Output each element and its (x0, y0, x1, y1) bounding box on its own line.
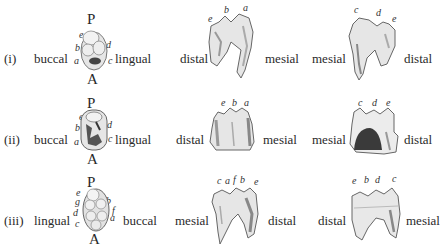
molar-side-drawing (348, 184, 404, 244)
occlusal-tooth-drawing (82, 186, 110, 232)
anterior-label: A (87, 72, 98, 87)
posterior-label: P (87, 12, 95, 27)
anterior-label: A (89, 232, 100, 247)
cusp-label: a (110, 213, 115, 223)
molar-side-drawing (207, 12, 257, 80)
view2-left-label: mesial (175, 214, 209, 227)
row-numeral: (iii) (4, 214, 24, 227)
view3-right-label: distal (404, 52, 432, 65)
view3-left-label: mesial (312, 133, 346, 146)
view2-right-label: distal (268, 214, 296, 227)
view2-left-label: distal (180, 52, 208, 65)
anterior-label: A (87, 152, 98, 167)
cusp-label: g (75, 197, 80, 207)
view2-left-label: distal (176, 133, 204, 146)
occlusal-tooth-drawing (80, 108, 108, 152)
tooth-figure: (i) buccal P A e b a d c lingual distal … (0, 0, 443, 248)
view2-right-label: mesial (263, 133, 297, 146)
view3-left-label: mesial (312, 52, 346, 65)
view3-left-label: distal (318, 214, 346, 227)
row-numeral: (i) (4, 52, 16, 65)
cusp-label: c (108, 134, 112, 144)
view2-right-label: mesial (265, 52, 299, 65)
occlusal-right-side-label: lingual (115, 133, 151, 146)
occlusal-tooth-drawing (79, 26, 109, 72)
occlusal-left-side-label: lingual (34, 214, 70, 227)
cusp-label: a (74, 137, 79, 147)
cusp-label: c (75, 219, 79, 229)
occlusal-left-side-label: buccal (34, 52, 68, 65)
cusp-label: c (392, 174, 396, 184)
molar-side-drawing (347, 14, 399, 80)
occlusal-right-side-label: lingual (115, 52, 151, 65)
occlusal-right-side-label: buccal (123, 214, 157, 227)
molar-side-drawing (348, 106, 400, 154)
occlusal-left-side-label: buccal (34, 133, 68, 146)
molar-side-drawing (210, 184, 262, 246)
cusp-label: d (73, 208, 78, 218)
view3-right-label: distal (404, 133, 432, 146)
view3-right-label: mesial (406, 214, 440, 227)
molar-side-drawing (208, 106, 258, 152)
row-numeral: (ii) (4, 133, 20, 146)
